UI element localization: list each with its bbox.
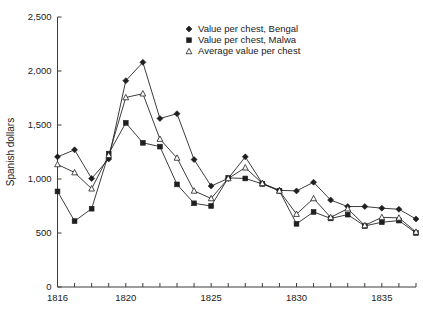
x-tick-label: 1816 <box>47 292 68 303</box>
legend-item[interactable]: Average value per chest <box>186 45 300 56</box>
marker-diamond <box>362 204 368 210</box>
marker-square <box>123 120 128 125</box>
x-axis: 18161820182518301835 <box>47 283 416 303</box>
marker-square <box>311 210 316 215</box>
marker-square <box>140 140 145 145</box>
x-tick-label: 1830 <box>286 292 307 303</box>
marker-diamond <box>157 116 163 122</box>
marker-triangle <box>242 165 248 170</box>
marker-square <box>294 221 299 226</box>
marker-square <box>243 176 248 181</box>
marker-diamond <box>191 157 197 163</box>
legend-label: Value per chest, Bengal <box>198 23 298 34</box>
x-tick-label: 1825 <box>201 292 222 303</box>
marker-triangle <box>140 91 146 96</box>
legend-label: Average value per chest <box>198 45 301 56</box>
y-tick-label: 2,000 <box>28 65 52 76</box>
marker-diamond <box>294 188 300 194</box>
series-line <box>58 123 417 233</box>
marker-square <box>89 206 94 211</box>
marker-square <box>72 219 77 224</box>
marker-square <box>209 204 214 209</box>
marker-diamond <box>174 111 180 117</box>
marker-triangle <box>72 169 78 174</box>
marker-triangle <box>191 188 197 193</box>
marker-diamond <box>379 205 385 211</box>
marker-square <box>379 220 384 225</box>
legend-label: Value per chest, Malwa <box>198 34 297 45</box>
series-line <box>58 94 417 232</box>
marker-square <box>158 144 163 149</box>
y-axis-title: Spanish dollars <box>5 118 16 186</box>
marker-square <box>192 201 197 206</box>
marker-triangle <box>55 161 61 166</box>
marker-triangle <box>311 195 317 200</box>
marker-square <box>345 212 350 217</box>
series-1 <box>55 59 420 222</box>
y-tick-label: 2,500 <box>28 11 52 22</box>
x-tick-label: 1835 <box>371 292 392 303</box>
legend-item[interactable]: Value per chest, Malwa <box>187 34 297 45</box>
line-chart: 05001,0001,5002,0002,500Spanish dollars1… <box>0 0 423 312</box>
marker-triangle <box>157 136 163 141</box>
marker-square <box>175 182 180 187</box>
y-axis: 05001,0001,5002,0002,500 <box>28 11 62 292</box>
legend: Value per chest, BengalValue per chest, … <box>186 23 301 56</box>
marker-diamond <box>72 147 78 153</box>
marker-square <box>187 38 192 43</box>
x-tick-label: 1820 <box>115 292 136 303</box>
y-tick-label: 500 <box>36 227 52 238</box>
y-tick-label: 1,500 <box>28 119 52 130</box>
marker-diamond <box>413 216 419 222</box>
marker-diamond <box>55 154 61 160</box>
marker-diamond <box>396 206 402 212</box>
marker-diamond <box>208 183 214 189</box>
y-tick-label: 0 <box>46 281 51 292</box>
marker-square <box>55 189 60 194</box>
marker-diamond <box>186 26 192 32</box>
chart-container: 05001,0001,5002,0002,500Spanish dollars1… <box>0 0 423 312</box>
series-2 <box>55 120 418 235</box>
marker-triangle <box>186 48 192 53</box>
legend-item[interactable]: Value per chest, Bengal <box>186 23 298 34</box>
series-line <box>58 62 417 219</box>
series-3 <box>55 91 419 235</box>
y-tick-label: 1,000 <box>28 173 52 184</box>
marker-triangle <box>379 214 385 219</box>
